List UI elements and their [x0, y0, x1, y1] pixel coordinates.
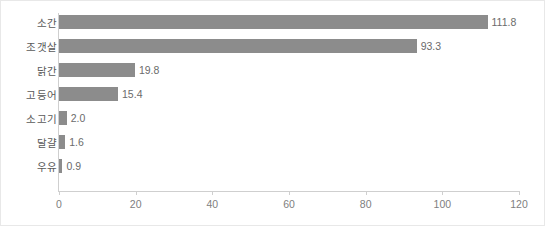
bar-value-label: 2.0	[67, 112, 86, 124]
x-tick-label: 120	[510, 198, 528, 210]
bar-row: 소고기2.0	[1, 111, 545, 125]
bar-row: 달걀1.6	[1, 135, 545, 149]
x-tick-mark	[59, 191, 60, 195]
x-tick-mark	[289, 191, 290, 195]
x-tick-label: 80	[360, 198, 372, 210]
category-label: 고등어	[26, 87, 57, 102]
x-tick-label: 40	[206, 198, 218, 210]
x-tick-label: 60	[283, 198, 295, 210]
bar-chart-figure: 소간111.8조갯살93.3닭간19.8고등어15.4소고기2.0달걀1.6우유…	[0, 0, 545, 226]
x-tick-mark	[212, 191, 213, 195]
bar	[59, 15, 488, 29]
x-tick-mark	[366, 191, 367, 195]
bar	[59, 39, 417, 53]
bar-row: 조갯살93.3	[1, 39, 545, 53]
bar-row: 닭간19.8	[1, 63, 545, 77]
bar-value-label: 0.9	[62, 160, 81, 172]
category-label: 소간	[37, 15, 57, 30]
plot-area: 소간111.8조갯살93.3닭간19.8고등어15.4소고기2.0달걀1.6우유…	[1, 1, 545, 226]
x-tick-mark	[519, 191, 520, 195]
bar-value-label: 93.3	[417, 40, 441, 52]
category-label: 달걀	[37, 135, 57, 150]
x-tick-label: 0	[56, 198, 62, 210]
category-label: 닭간	[37, 63, 57, 78]
bar-value-label: 1.6	[65, 136, 84, 148]
x-tick-label: 100	[434, 198, 452, 210]
category-label: 우유	[37, 159, 57, 174]
category-label: 소고기	[26, 111, 57, 126]
bar-row: 고등어15.4	[1, 87, 545, 101]
x-tick-mark	[136, 191, 137, 195]
x-tick-label: 20	[130, 198, 142, 210]
bar	[59, 111, 67, 125]
bar-value-label: 111.8	[488, 16, 517, 28]
category-label: 조갯살	[26, 39, 57, 54]
bar-row: 소간111.8	[1, 15, 545, 29]
bar	[59, 63, 135, 77]
bar	[59, 87, 118, 101]
x-tick-mark	[442, 191, 443, 195]
bar-value-label: 19.8	[135, 64, 159, 76]
bar-value-label: 15.4	[118, 88, 142, 100]
bar-row: 우유0.9	[1, 159, 545, 173]
